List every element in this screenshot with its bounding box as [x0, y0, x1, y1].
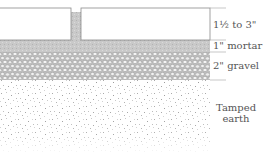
mortar-joint	[71, 12, 81, 40]
gravel-layer	[0, 52, 210, 80]
gravel-label: 2" gravel	[213, 61, 259, 71]
earth-layer	[0, 80, 210, 152]
mortar-label: 1" mortar	[213, 41, 262, 51]
paver-thickness-label: 1½ to 3"	[213, 20, 256, 30]
earth-label-line2: earth	[216, 113, 256, 124]
earth-label: Tamped earth	[216, 102, 256, 124]
paver-right	[81, 8, 210, 40]
mortar-layer	[0, 40, 210, 52]
earth-label-line1: Tamped	[216, 102, 256, 113]
paver-left	[0, 8, 71, 40]
